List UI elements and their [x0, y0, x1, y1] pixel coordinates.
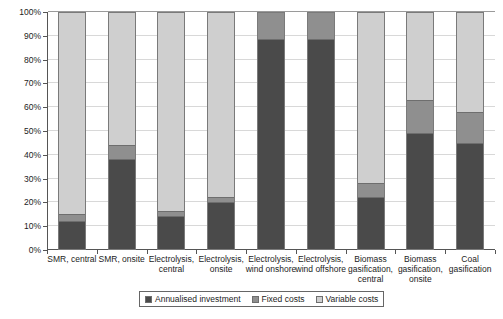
x-axis-label-1: SMR, onsite — [95, 254, 149, 264]
legend-item-invest[interactable]: Annualised investment — [145, 294, 241, 304]
segment-fixed-costs — [457, 112, 483, 143]
y-tick-label-70: 70% — [2, 78, 41, 88]
bar-group — [307, 12, 335, 250]
bar-group — [406, 12, 434, 250]
stacked-bar-chart: 0%10%20%30%40%50%60%70%80%90%100% SMR, c… — [0, 0, 503, 319]
y-tick-label-100: 100% — [2, 7, 41, 17]
segment-fixed-costs — [308, 13, 334, 39]
bar-group — [456, 12, 484, 250]
stacked-bar[interactable] — [157, 12, 185, 250]
legend-item-variable[interactable]: Variable costs — [316, 294, 379, 304]
stacked-bar[interactable] — [108, 12, 136, 250]
segment-variable-costs — [59, 13, 85, 214]
x-axis-label-6: Biomass gasification, central — [344, 254, 398, 284]
segment-annualised-investment — [308, 39, 334, 249]
legend-label: Annualised investment — [155, 294, 241, 304]
y-tick-label-0: 0% — [2, 245, 41, 255]
stacked-bar[interactable] — [207, 12, 235, 250]
legend-label: Variable costs — [326, 294, 379, 304]
x-axis-label-3: Electrolysis, onsite — [194, 254, 248, 274]
stacked-bar[interactable] — [58, 12, 86, 250]
stacked-bar[interactable] — [456, 12, 484, 250]
segment-variable-costs — [358, 13, 384, 183]
y-tick-label-10: 10% — [2, 221, 41, 231]
segment-fixed-costs — [407, 100, 433, 133]
y-tick-label-20: 20% — [2, 197, 41, 207]
legend-swatch-invest-icon — [145, 296, 152, 303]
segment-variable-costs — [407, 13, 433, 100]
segment-fixed-costs — [358, 183, 384, 197]
bar-group — [58, 12, 86, 250]
bar-group — [257, 12, 285, 250]
segment-annualised-investment — [59, 221, 85, 249]
segment-variable-costs — [208, 13, 234, 197]
legend-item-fixed[interactable]: Fixed costs — [252, 294, 305, 304]
stacked-bar[interactable] — [307, 12, 335, 250]
segment-fixed-costs — [109, 145, 135, 159]
x-axis-label-5: Electrolysis, wind offshore — [294, 254, 348, 274]
bars-layer — [47, 12, 495, 250]
x-axis-label-7: Biomass gasification, onsite — [393, 254, 447, 284]
bar-group — [357, 12, 385, 250]
stacked-bar[interactable] — [257, 12, 285, 250]
bar-group — [108, 12, 136, 250]
segment-variable-costs — [158, 13, 184, 211]
legend-label: Fixed costs — [262, 294, 305, 304]
segment-fixed-costs — [59, 214, 85, 221]
y-tick-label-50: 50% — [2, 126, 41, 136]
segment-annualised-investment — [358, 197, 384, 249]
segment-annualised-investment — [258, 39, 284, 249]
legend-swatch-variable-icon — [316, 296, 323, 303]
y-tick-label-30: 30% — [2, 174, 41, 184]
stacked-bar[interactable] — [357, 12, 385, 250]
segment-annualised-investment — [158, 216, 184, 249]
legend-swatch-fixed-icon — [252, 296, 259, 303]
bar-group — [157, 12, 185, 250]
bar-group — [207, 12, 235, 250]
x-axis-label-0: SMR, central — [45, 254, 99, 264]
y-tick-label-80: 80% — [2, 55, 41, 65]
segment-annualised-investment — [208, 202, 234, 249]
segment-variable-costs — [457, 13, 483, 112]
chart-legend: Annualised investmentFixed costsVariable… — [139, 291, 384, 307]
y-tick-label-90: 90% — [2, 31, 41, 41]
segment-variable-costs — [109, 13, 135, 145]
x-axis-label-4: Electrolysis, wind onshore — [244, 254, 298, 274]
x-axis-label-2: Electrolysis, central — [145, 254, 199, 274]
x-axis-label-8: Coal gasification — [443, 254, 497, 274]
y-tick-label-60: 60% — [2, 102, 41, 112]
segment-fixed-costs — [258, 13, 284, 39]
segment-annualised-investment — [457, 143, 483, 249]
y-tick-label-40: 40% — [2, 150, 41, 160]
segment-annualised-investment — [109, 159, 135, 249]
stacked-bar[interactable] — [406, 12, 434, 250]
segment-annualised-investment — [407, 133, 433, 249]
